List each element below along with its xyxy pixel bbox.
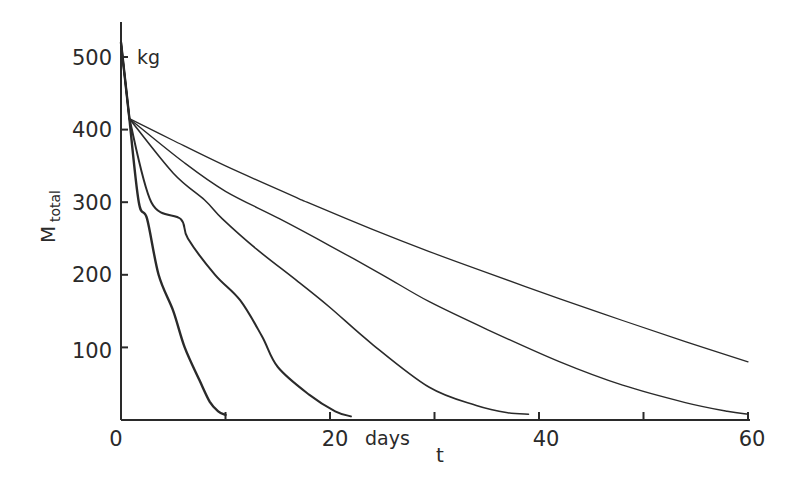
- x-tick-label-0: 0: [109, 427, 122, 451]
- y-axis-title-subscript: total: [47, 190, 63, 222]
- y-unit-label: kg: [137, 46, 160, 68]
- y-tick-label-100: 100: [72, 339, 112, 363]
- series-curve-4: [121, 43, 748, 415]
- x-unit-label: days: [365, 427, 410, 449]
- y-tick-label-400: 400: [72, 118, 112, 142]
- y-axis-title: M total: [36, 190, 63, 243]
- series-curve-3: [121, 43, 529, 415]
- y-tick-labels: 500 400 300 200 100: [72, 46, 112, 363]
- x-axis-title: t: [436, 443, 444, 467]
- series-curve-2: [121, 43, 351, 417]
- y-axis-title-main: M: [36, 226, 60, 243]
- x-tick-label-40: 40: [533, 427, 560, 451]
- axes: [121, 22, 750, 420]
- curves: [121, 43, 748, 417]
- x-ticks: [226, 412, 749, 420]
- series-curve-5: [121, 43, 748, 362]
- series-curve-1: [121, 43, 226, 415]
- y-tick-label-300: 300: [72, 191, 112, 215]
- mass-decay-chart: 500 400 300 200 100 kg M total 0 20 40 6…: [0, 0, 793, 483]
- x-tick-label-60: 60: [739, 427, 766, 451]
- x-tick-label-20: 20: [322, 427, 349, 451]
- y-tick-label-500: 500: [72, 46, 112, 70]
- y-tick-label-200: 200: [72, 263, 112, 287]
